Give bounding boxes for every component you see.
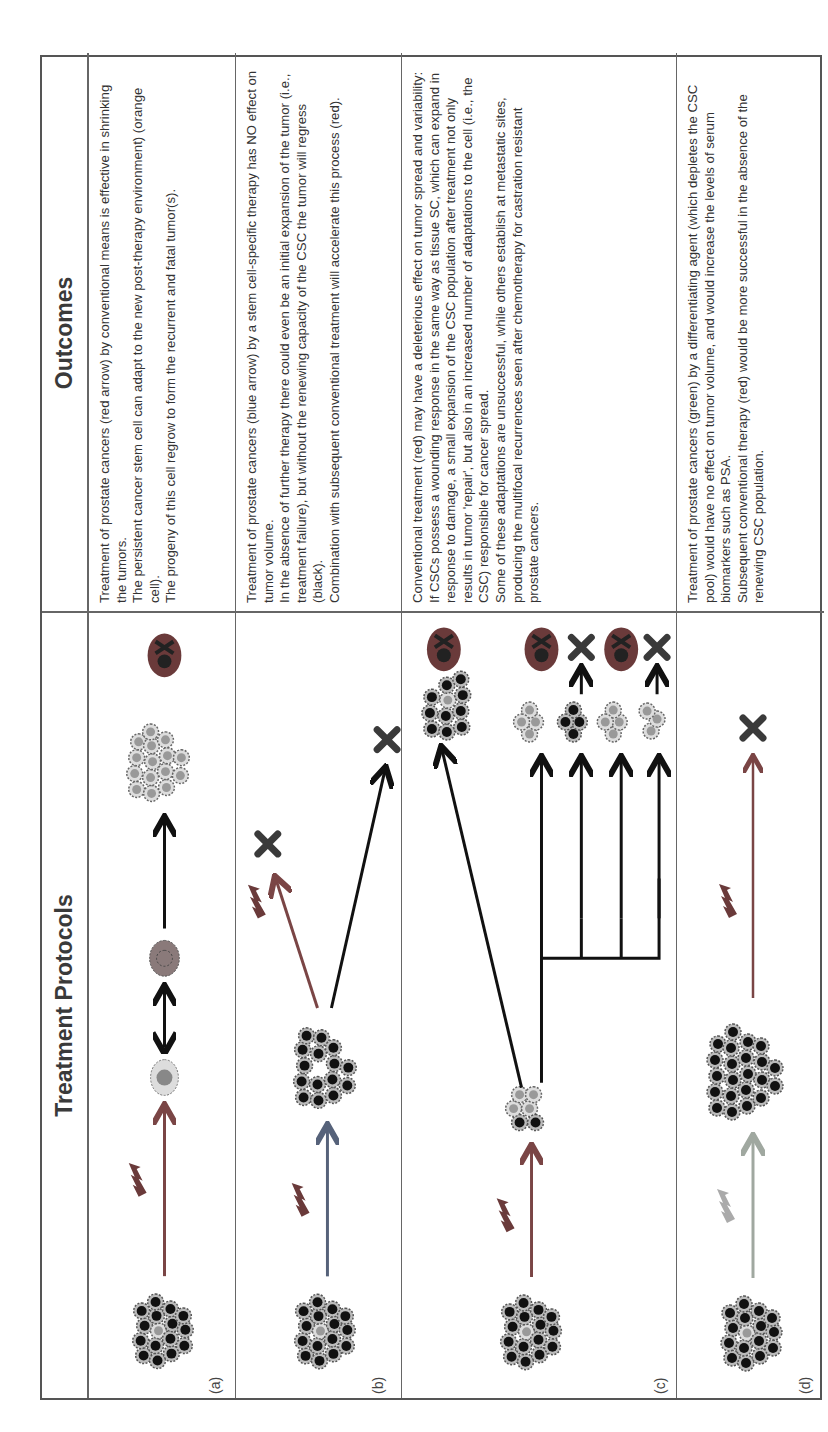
regression-x-icon	[647, 637, 667, 657]
outcome-c: Conventional treatment (red) may have a …	[410, 63, 543, 603]
regrown-tumor-icon	[422, 671, 471, 740]
protocol-b-diagram	[236, 613, 401, 1398]
row-a: (a) Treatment of prostate cancers (re	[89, 53, 236, 1398]
row-d: (d) Treatment of prostate cancers (green…	[677, 53, 824, 1398]
tumor-icon	[721, 1296, 782, 1371]
outcome-a: Treatment of prostate cancers (red arrow…	[97, 63, 180, 603]
expanded-csc-cluster-icon	[506, 1087, 544, 1131]
lightning-icon	[497, 1198, 515, 1232]
outcome-line: Some of these adaptations are unsuccessf…	[493, 63, 543, 603]
outcomes-header: Outcomes	[42, 53, 89, 613]
outcome-line: Treatment of prostate cancers (blue arro…	[244, 63, 277, 603]
protocol-table: Treatment Protocols Outcomes	[40, 55, 822, 1400]
protocol-c-diagram	[402, 613, 676, 1398]
metastatic-foci-icons	[514, 702, 665, 742]
lightning-icon	[248, 885, 266, 919]
lightning-icon	[129, 1163, 147, 1197]
rotated-figure: Treatment Protocols Outcomes	[40, 55, 822, 1400]
regression-x-icon	[743, 718, 763, 738]
outcome-line: Combination with subsequent conventional…	[327, 63, 344, 603]
fatal-skull-icon	[427, 627, 461, 671]
outcome-line: Treatment of prostate cancers (green) by…	[685, 63, 735, 603]
outcome-line: Conventional treatment (red) may have a …	[410, 63, 427, 603]
fatal-skull-icon	[148, 634, 182, 678]
row-b: (b) Treatment of prostate cancers (bl	[236, 53, 402, 1398]
tumor-icon	[133, 1294, 194, 1368]
orange-cell-icon	[150, 940, 180, 976]
lightning-icon	[719, 884, 737, 918]
outcome-line: Subsequent conventional therapy (red) wo…	[735, 63, 768, 603]
outcome-line: The progeny of this cell regrow to form …	[163, 63, 180, 603]
lightning-icon	[717, 1189, 735, 1223]
outcome-d: Treatment of prostate cancers (green) by…	[685, 63, 768, 603]
row-c: (c)	[402, 53, 677, 1398]
protocol-d-diagram	[677, 613, 824, 1398]
lightning-icon	[292, 1183, 310, 1217]
protocol-a-diagram	[89, 613, 235, 1398]
outcome-line: The persistent cancer stem cell can adap…	[130, 63, 163, 603]
stem-cell-icon	[151, 1060, 179, 1096]
fatal-skull-icon	[525, 627, 559, 671]
regression-x-icon	[571, 637, 591, 657]
outcome-line: If CSCs possess a wounding response in t…	[427, 63, 493, 603]
outcome-line: Treatment of prostate cancers (red arrow…	[97, 63, 130, 603]
treatment-protocols-header: Treatment Protocols	[42, 613, 89, 1398]
fatal-skull-icon	[604, 627, 638, 671]
outcome-line: In the absence of further therapy there …	[277, 63, 327, 603]
differentiated-tumor-icon	[707, 1024, 783, 1120]
tumor-without-csc-icon	[294, 1028, 357, 1109]
recurrent-tumor-icon	[127, 724, 190, 801]
tumor-icon	[295, 1294, 356, 1369]
regression-x-icon	[258, 834, 278, 854]
regression-x-icon	[377, 730, 397, 750]
tumor-icon	[501, 1295, 562, 1370]
outcome-b: Treatment of prostate cancers (blue arro…	[244, 63, 344, 603]
